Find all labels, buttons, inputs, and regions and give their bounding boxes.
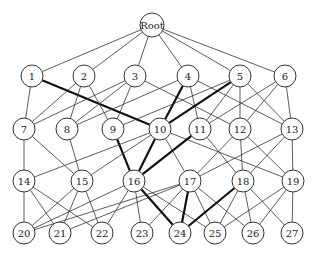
node-label: 9 bbox=[110, 124, 116, 135]
node-4: 4 bbox=[177, 65, 199, 87]
node-2: 2 bbox=[73, 65, 95, 87]
node-label: 4 bbox=[185, 71, 191, 82]
node-label: 15 bbox=[76, 176, 89, 187]
node-13: 13 bbox=[281, 118, 303, 140]
node-label: 21 bbox=[54, 228, 67, 239]
node-12: 12 bbox=[229, 118, 251, 140]
edge-14-21 bbox=[30, 190, 53, 224]
node-26: 26 bbox=[242, 222, 264, 244]
node-6: 6 bbox=[274, 65, 296, 87]
node-label: 5 bbox=[237, 71, 243, 82]
edge-3-8 bbox=[76, 83, 127, 122]
edge-18-24 bbox=[188, 188, 234, 226]
node-label: 17 bbox=[184, 176, 197, 187]
node-label: 26 bbox=[247, 228, 260, 239]
edge-15-20 bbox=[32, 188, 74, 225]
node-15: 15 bbox=[71, 170, 93, 192]
node-23: 23 bbox=[131, 222, 153, 244]
edge-2-7 bbox=[32, 83, 76, 121]
node-label: 23 bbox=[136, 228, 149, 239]
node-label: 27 bbox=[286, 228, 299, 239]
node-label: 14 bbox=[18, 176, 31, 187]
node-16: 16 bbox=[123, 170, 145, 192]
node-label: 19 bbox=[287, 176, 300, 187]
edge-Root-1 bbox=[42, 30, 141, 72]
node-8: 8 bbox=[56, 118, 78, 140]
node-24: 24 bbox=[169, 222, 191, 244]
node-18: 18 bbox=[232, 170, 254, 192]
edge-4-10 bbox=[165, 86, 183, 120]
node-19: 19 bbox=[282, 170, 304, 192]
edge-19-27 bbox=[292, 192, 293, 222]
node-label: 7 bbox=[21, 124, 27, 135]
node-11: 11 bbox=[189, 118, 211, 140]
node-label: 3 bbox=[132, 71, 138, 82]
node-root: Root bbox=[140, 13, 164, 37]
node-27: 27 bbox=[281, 222, 303, 244]
node-1: 1 bbox=[21, 65, 43, 87]
node-3: 3 bbox=[124, 65, 146, 87]
node-label: 6 bbox=[282, 71, 288, 82]
edge-11-18 bbox=[207, 137, 236, 172]
edge-Root-3 bbox=[138, 36, 148, 65]
node-label: 2 bbox=[81, 71, 87, 82]
edge-Root-6 bbox=[163, 29, 275, 72]
node-9: 9 bbox=[102, 118, 124, 140]
node-label: 11 bbox=[194, 124, 207, 135]
edge-17-21 bbox=[70, 185, 180, 229]
edge-15-22 bbox=[86, 191, 98, 222]
edge-1-7 bbox=[26, 87, 31, 118]
node-label: 18 bbox=[237, 176, 250, 187]
node-label: 8 bbox=[64, 124, 70, 135]
edge-7-15 bbox=[32, 136, 74, 173]
node-10: 10 bbox=[149, 118, 171, 140]
edge-13-19 bbox=[292, 140, 293, 170]
edge-18-27 bbox=[251, 189, 285, 225]
node-label: 22 bbox=[96, 228, 109, 239]
node-20: 20 bbox=[13, 222, 35, 244]
edge-19-26 bbox=[260, 190, 287, 225]
node-label: 16 bbox=[128, 176, 141, 187]
node-21: 21 bbox=[49, 222, 71, 244]
edge-Root-4 bbox=[159, 35, 182, 67]
node-label: 12 bbox=[234, 124, 247, 135]
node-label: 13 bbox=[286, 124, 299, 135]
node-17: 17 bbox=[179, 170, 201, 192]
node-label: 24 bbox=[174, 228, 187, 239]
node-label: 1 bbox=[29, 71, 35, 82]
edge-10-15 bbox=[91, 135, 151, 175]
edge-8-15 bbox=[70, 140, 79, 171]
node-label: 10 bbox=[154, 124, 167, 135]
node-label: 25 bbox=[209, 228, 222, 239]
edge-18-26 bbox=[245, 192, 251, 222]
edge-5-10 bbox=[169, 82, 231, 123]
node-22: 22 bbox=[91, 222, 113, 244]
node-14: 14 bbox=[13, 170, 35, 192]
layered-graph-diagram: Root123456789101112131415161718192021222… bbox=[0, 0, 317, 259]
node-label: 20 bbox=[18, 228, 31, 239]
node-7: 7 bbox=[13, 118, 35, 140]
edge-4-11 bbox=[190, 87, 197, 119]
node-label: Root bbox=[140, 20, 164, 31]
edge-17-24 bbox=[182, 192, 188, 222]
node-25: 25 bbox=[204, 222, 226, 244]
edge-9-16 bbox=[117, 139, 130, 171]
node-5: 5 bbox=[229, 65, 251, 87]
edge-Root-2 bbox=[93, 32, 143, 69]
edge-6-13 bbox=[286, 87, 290, 118]
